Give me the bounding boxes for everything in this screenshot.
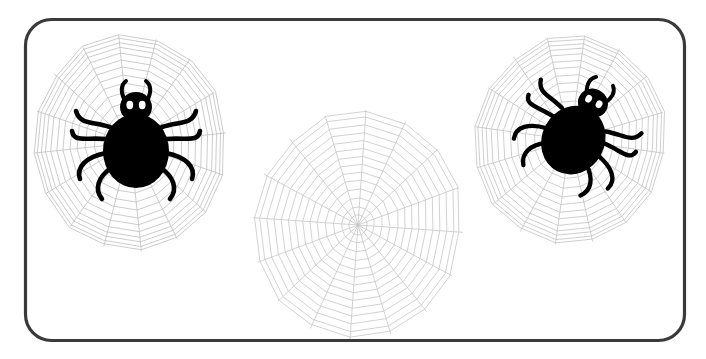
artboard	[0, 0, 706, 359]
canvas-background	[0, 0, 706, 359]
illustration-canvas: Spiders and spider webs illustration	[0, 0, 706, 359]
